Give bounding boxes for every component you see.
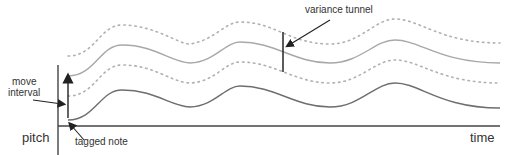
lower-contour: [68, 83, 500, 120]
upper-dotted-bound: [68, 19, 500, 56]
move-interval-label-line1: move: [12, 76, 36, 87]
melody-diagram: [0, 0, 507, 155]
move-interval-label-line2: interval: [8, 87, 40, 98]
y-axis-label: pitch: [22, 130, 49, 145]
tagged-note-label: tagged note: [75, 136, 128, 147]
upper-contour: [68, 40, 500, 76]
x-axis-label: time: [470, 130, 495, 145]
variance-tunnel-label: variance tunnel: [305, 4, 373, 15]
variance-tunnel-pointer: [289, 20, 330, 45]
